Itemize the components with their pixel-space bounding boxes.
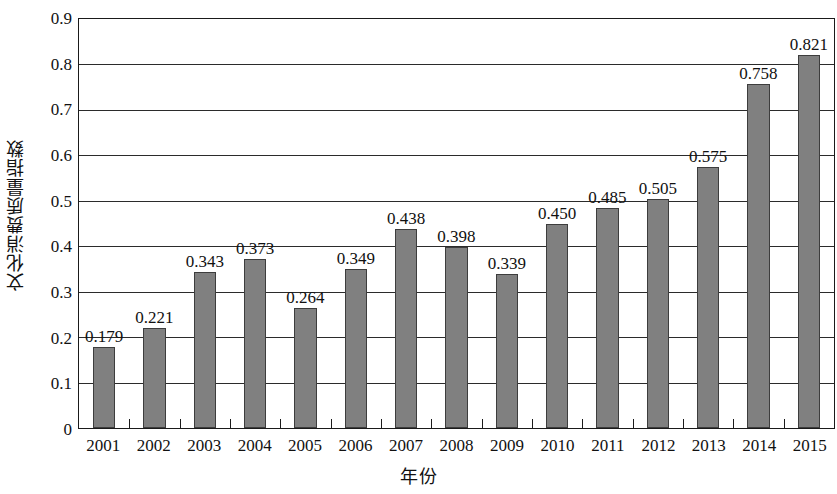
y-tick-label: 0.4 (51, 238, 72, 255)
bar-cell: 0.450 (532, 19, 582, 428)
bar: 0.373 (244, 259, 266, 429)
y-tick-label: 0.1 (51, 375, 72, 392)
y-axis-title: 文化消费质量指数 (2, 0, 32, 430)
bar-cell: 0.505 (633, 19, 683, 428)
bar-value-label: 0.398 (437, 228, 475, 245)
bar-series: 0.1790.2210.3430.3730.2640.3490.4380.398… (79, 19, 834, 428)
bar: 0.758 (747, 84, 769, 428)
y-tick-label: 0.9 (51, 10, 72, 27)
bar-cell: 0.485 (582, 19, 632, 428)
bar-cell: 0.575 (683, 19, 733, 428)
bar-value-label: 0.575 (689, 148, 727, 165)
bar-cell: 0.821 (784, 19, 834, 428)
bar: 0.505 (647, 199, 669, 428)
x-tick-label: 2010 (532, 433, 582, 459)
bar-value-label: 0.343 (186, 253, 224, 270)
x-axis-tick-marks (79, 418, 834, 428)
x-tick-mark (230, 419, 231, 428)
bar: 0.821 (798, 55, 820, 428)
bar: 0.485 (596, 208, 618, 428)
bar-cell: 0.438 (381, 19, 431, 428)
bar-chart: 文化消费质量指数 00.10.20.30.40.50.60.70.80.9 0.… (0, 0, 837, 494)
bar-value-label: 0.821 (790, 36, 828, 53)
bar-cell: 0.349 (331, 19, 381, 428)
bar-cell: 0.179 (79, 19, 129, 428)
bar-value-label: 0.221 (135, 309, 173, 326)
bar: 0.438 (395, 229, 417, 428)
bar-cell: 0.343 (180, 19, 230, 428)
y-tick-label: 0 (64, 421, 73, 438)
bar-cell: 0.758 (733, 19, 783, 428)
x-tick-mark (784, 419, 785, 428)
y-axis-title-text: 文化消费质量指数 (4, 139, 30, 291)
x-tick-mark (633, 419, 634, 428)
bar-cell: 0.221 (129, 19, 179, 428)
x-axis-title: 年份 (0, 462, 837, 488)
x-tick-mark (381, 419, 382, 428)
x-tick-mark (129, 419, 130, 428)
y-tick-label: 0.8 (51, 55, 72, 72)
bar: 0.575 (697, 167, 719, 428)
y-tick-label: 0.2 (51, 329, 72, 346)
bar-value-label: 0.758 (739, 65, 777, 82)
x-tick-mark (683, 419, 684, 428)
x-tick-mark (582, 419, 583, 428)
bar-value-label: 0.438 (387, 210, 425, 227)
bar: 0.398 (445, 247, 467, 428)
y-tick-label: 0.7 (51, 101, 72, 118)
bar-value-label: 0.179 (85, 328, 123, 345)
bar-cell: 0.264 (280, 19, 330, 428)
bar: 0.450 (546, 224, 568, 429)
x-axis-tick-labels: 2001200220032004200520062007200820092010… (78, 433, 835, 459)
x-tick-label: 2015 (785, 433, 835, 459)
x-tick-mark (180, 419, 181, 428)
x-tick-label: 2011 (583, 433, 633, 459)
bar: 0.343 (194, 272, 216, 428)
bar-value-label: 0.349 (337, 250, 375, 267)
x-tick-label: 2004 (229, 433, 279, 459)
x-tick-label: 2012 (633, 433, 683, 459)
bar-cell: 0.398 (431, 19, 481, 428)
bar: 0.339 (496, 274, 518, 428)
plot-area: 0.1790.2210.3430.3730.2640.3490.4380.398… (78, 18, 835, 429)
bar-value-label: 0.505 (639, 180, 677, 197)
x-tick-label: 2014 (734, 433, 784, 459)
x-tick-mark (331, 419, 332, 428)
bar-cell: 0.339 (482, 19, 532, 428)
x-tick-label: 2007 (381, 433, 431, 459)
x-tick-label: 2005 (280, 433, 330, 459)
bar-cell: 0.373 (230, 19, 280, 428)
x-tick-label: 2013 (684, 433, 734, 459)
bar: 0.264 (294, 308, 316, 428)
bar-value-label: 0.485 (588, 189, 626, 206)
x-tick-mark (482, 419, 483, 428)
bar-value-label: 0.450 (538, 205, 576, 222)
x-tick-mark (733, 419, 734, 428)
x-tick-label: 2008 (431, 433, 481, 459)
x-tick-mark (431, 419, 432, 428)
y-tick-label: 0.5 (51, 192, 72, 209)
x-tick-label: 2009 (482, 433, 532, 459)
y-axis-tick-labels: 00.10.20.30.40.50.60.70.80.9 (30, 0, 76, 494)
x-tick-label: 2001 (78, 433, 128, 459)
bar-value-label: 0.373 (236, 240, 274, 257)
bar-value-label: 0.264 (286, 289, 324, 306)
x-tick-label: 2006 (330, 433, 380, 459)
y-tick-label: 0.3 (51, 284, 72, 301)
bar: 0.221 (143, 328, 165, 428)
bar-value-label: 0.339 (488, 255, 526, 272)
x-tick-mark (532, 419, 533, 428)
bar: 0.349 (345, 269, 367, 428)
x-tick-label: 2003 (179, 433, 229, 459)
x-tick-mark (280, 419, 281, 428)
bar: 0.179 (93, 347, 115, 428)
x-tick-label: 2002 (128, 433, 178, 459)
y-tick-label: 0.6 (51, 147, 72, 164)
